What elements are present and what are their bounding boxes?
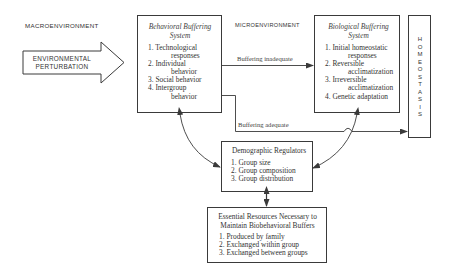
behavioral-demographic-connector (180, 114, 220, 167)
buffering-inadequate-label: Buffering inadequate (237, 55, 293, 62)
resources-title: Essential Resources Necessary to Maintai… (212, 213, 323, 230)
list-item: 1. Technologicalresponses (148, 44, 218, 60)
list-item: 3. Exchanged between groups (219, 249, 323, 257)
demographic-title: Demographic Regulators (231, 147, 309, 156)
resources-list: 1. Produced by family 2. Exchanged withi… (219, 233, 323, 257)
behavioral-buffering-box: Behavioral Buffering System 1. Technolog… (138, 16, 222, 113)
list-item: 3. Irreversibleacclimatization (325, 76, 398, 92)
macroenvironment-label: MACROENVIRONMENT (25, 22, 99, 29)
biological-title: Biological Buffering System (319, 23, 398, 40)
biological-demographic-connector (313, 114, 357, 168)
microenvironment-label: MICROENVIRONMENT (235, 22, 300, 28)
biological-list: 1. Initial homeostaticresponses 2. Rever… (325, 44, 398, 101)
biological-buffering-box: Biological Buffering System 1. Initial h… (315, 16, 400, 113)
list-item: 4. Intergroupbehavior (148, 84, 218, 100)
list-item: 1. Initial homeostaticresponses (325, 44, 398, 60)
perturbation-line1: ENVIRONMENTAL (27, 55, 97, 63)
list-item: 4. Genetic adaptation (325, 93, 398, 101)
list-item: 2. Reversibleacclimatization (325, 60, 398, 76)
list-item: 3. Group distribution (231, 175, 309, 183)
essential-resources-box: Essential Resources Necessary to Maintai… (208, 208, 327, 263)
demographic-regulators-box: Demographic Regulators 1. Group size 2. … (222, 142, 313, 192)
homeostasis-box: H O M E O S T A S I S (409, 36, 431, 119)
perturbation-line2: PERTURBATION (27, 63, 97, 71)
demographic-list: 1. Group size 2. Group composition 3. Gr… (231, 159, 309, 183)
behavioral-title: Behavioral Buffering System (142, 23, 218, 40)
perturbation-arrow-label: ENVIRONMENTAL PERTURBATION (27, 55, 97, 71)
behavioral-list: 1. Technologicalresponses 2. Individualb… (148, 44, 218, 101)
list-item: 2. Individualbehavior (148, 60, 218, 76)
buffering-adequate-label: Buffering adequate (238, 121, 289, 128)
